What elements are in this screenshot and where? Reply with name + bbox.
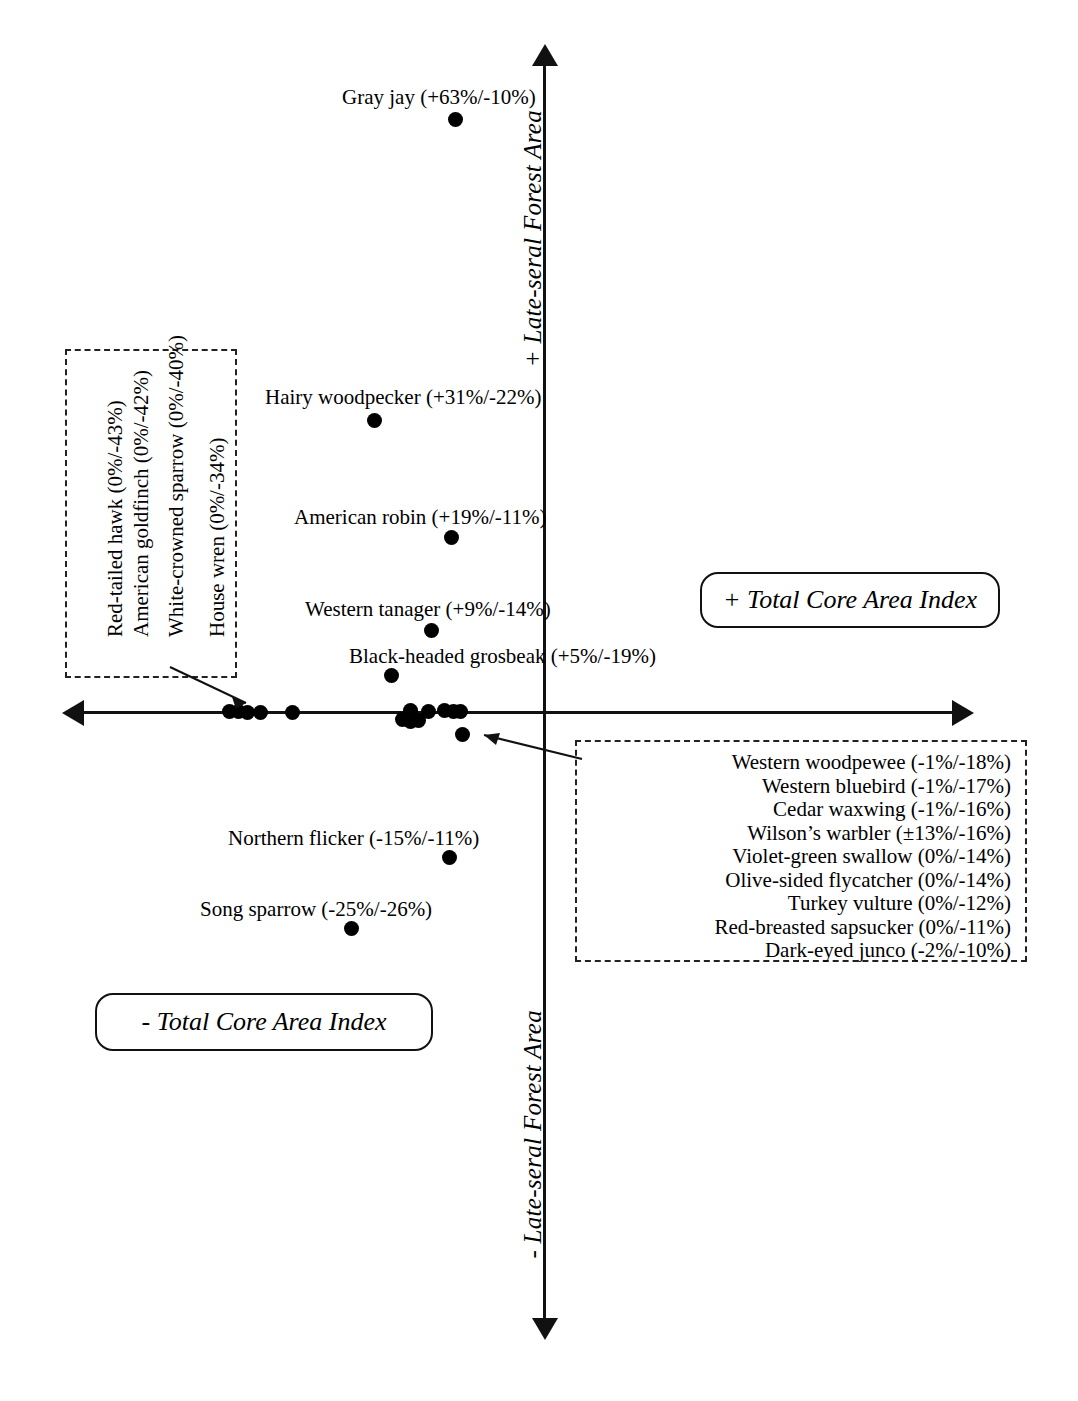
- data-point-axis-cluster: [455, 727, 470, 742]
- right-callout-item-2: Cedar waxwing (-1%/-16%): [577, 798, 1011, 822]
- data-point-axis-cluster: [285, 705, 300, 720]
- right-callout-item-0: Western woodpewee (-1%/-18%): [577, 751, 1011, 775]
- y-axis-bottom-arrowhead: [532, 1318, 558, 1340]
- right-callout-item-6: Turkey vulture (0%/-12%): [577, 892, 1011, 916]
- left-callout-items: Red-tailed hawk (0%/-43%) American goldf…: [67, 351, 235, 676]
- y-axis-top-arrowhead: [532, 44, 558, 66]
- data-point-axis-cluster: [403, 703, 418, 718]
- point-label-gray-jay: Gray jay (+63%/-10%): [342, 85, 536, 110]
- right-callout-leader-arrow: [470, 725, 590, 767]
- point-label-song-sparrow: Song sparrow (-25%/-26%): [200, 897, 432, 922]
- data-point-black-headed-grosbeak: [384, 668, 399, 683]
- point-label-black-headed-grosbeak: Black-headed grosbeak (+5%/-19%): [349, 644, 656, 669]
- point-label-american-robin: American robin (+19%/-11%): [294, 505, 546, 530]
- right-callout-item-1: Western bluebird (-1%/-17%): [577, 775, 1011, 799]
- right-species-callout-box: Western woodpewee (-1%/-18%) Western blu…: [575, 740, 1027, 962]
- x-axis-left-arrowhead: [62, 700, 84, 726]
- y-axis-negative-title: - Late-seral Forest Area: [519, 1010, 547, 1259]
- positive-total-core-area-index-box: + Total Core Area Index: [700, 572, 1000, 628]
- data-point-american-robin: [444, 530, 459, 545]
- scatter-plot-figure: + Late-seral Forest Area - Late-seral Fo…: [0, 0, 1078, 1401]
- left-callout-item-1: American goldfinch (0%/-42%): [129, 370, 154, 637]
- data-point-northern-flicker: [442, 850, 457, 865]
- data-point-gray-jay: [448, 112, 463, 127]
- right-callout-item-8: Dark-eyed junco (-2%/-10%): [577, 939, 1011, 963]
- data-point-axis-cluster: [453, 704, 468, 719]
- left-species-callout-box: Red-tailed hawk (0%/-43%) American goldf…: [65, 349, 237, 678]
- right-callout-item-4: Violet-green swallow (0%/-14%): [577, 845, 1011, 869]
- point-label-northern-flicker: Northern flicker (-15%/-11%): [228, 826, 479, 851]
- right-callout-item-3: Wilson’s warbler (±13%/-16%): [577, 822, 1011, 846]
- data-point-hairy-woodpecker: [367, 413, 382, 428]
- point-label-hairy-woodpecker: Hairy woodpecker (+31%/-22%): [265, 385, 542, 410]
- left-callout-item-3: House wren (0%/-34%): [205, 438, 230, 637]
- data-point-axis-cluster: [421, 704, 436, 719]
- right-callout-item-5: Olive-sided flycatcher (0%/-14%): [577, 869, 1011, 893]
- right-callout-item-7: Red-breasted sapsucker (0%/-11%): [577, 916, 1011, 940]
- point-label-western-tanager: Western tanager (+9%/-14%): [305, 597, 551, 622]
- data-point-axis-cluster: [253, 705, 268, 720]
- y-axis-positive-title: + Late-seral Forest Area: [519, 110, 547, 367]
- left-callout-item-2: White-crowned sparrow (0%/-40%): [164, 335, 189, 637]
- negative-total-core-area-index-box: - Total Core Area Index: [95, 993, 433, 1051]
- x-axis-line: [78, 711, 958, 714]
- x-axis-right-arrowhead: [952, 700, 974, 726]
- data-point-song-sparrow: [344, 921, 359, 936]
- left-callout-item-0: Red-tailed hawk (0%/-43%): [103, 400, 128, 637]
- data-point-western-tanager: [424, 623, 439, 638]
